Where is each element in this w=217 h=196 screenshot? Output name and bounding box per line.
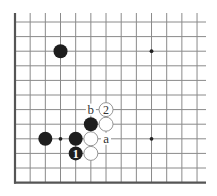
point-label-text: b bbox=[88, 102, 95, 117]
star-point bbox=[150, 49, 154, 53]
black-stone-disc bbox=[38, 132, 52, 146]
black-stone-disc bbox=[54, 44, 68, 58]
white-stone-disc bbox=[99, 117, 113, 131]
black-stone-1: 1 bbox=[69, 146, 83, 160]
black-stone-disc bbox=[69, 132, 83, 146]
white-stone bbox=[99, 117, 113, 131]
white-stone-disc bbox=[84, 132, 98, 146]
black-stone-disc bbox=[84, 117, 98, 131]
black-stone bbox=[38, 132, 52, 146]
black-stone bbox=[84, 117, 98, 131]
black-stone bbox=[69, 132, 83, 146]
star-point bbox=[150, 137, 154, 141]
white-stone-disc bbox=[84, 146, 98, 160]
point-label-text: a bbox=[103, 131, 109, 146]
white-stone bbox=[84, 146, 98, 160]
move-number: 2 bbox=[103, 103, 109, 117]
point-label-a: a bbox=[101, 131, 111, 146]
move-number: 1 bbox=[73, 147, 79, 161]
go-board: 21 ab bbox=[0, 0, 217, 196]
grid-lines bbox=[14, 13, 206, 184]
star-point bbox=[59, 137, 63, 141]
point-label-b: b bbox=[86, 102, 96, 117]
white-stone-2: 2 bbox=[99, 103, 113, 117]
black-stone bbox=[54, 44, 68, 58]
white-stone bbox=[84, 132, 98, 146]
